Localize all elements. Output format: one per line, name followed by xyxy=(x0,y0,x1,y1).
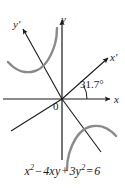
origin-label: 0 xyxy=(53,101,59,112)
equation-term-xy: 4xy xyxy=(43,164,60,178)
y-prime-axis-label: y′ xyxy=(13,19,20,30)
x-prime-axis-label: x′ xyxy=(110,52,117,63)
equation-equals-sign: = xyxy=(85,164,94,178)
conic-equation: x2−4xy+3y2=6 xyxy=(0,164,125,179)
equation-right-hand-side: 6 xyxy=(94,164,100,178)
rotation-angle-label: 31.7° xyxy=(80,79,104,90)
x-axis-label: x xyxy=(114,94,119,105)
hyperbola-branch-upper-left xyxy=(8,28,57,72)
rotated-conic-figure: y′ y x′ x 0 31.7° x2−4xy+3y2=6 xyxy=(0,0,125,188)
y-axis-label: y xyxy=(61,14,66,25)
equation-operator-minus: − xyxy=(34,164,43,178)
